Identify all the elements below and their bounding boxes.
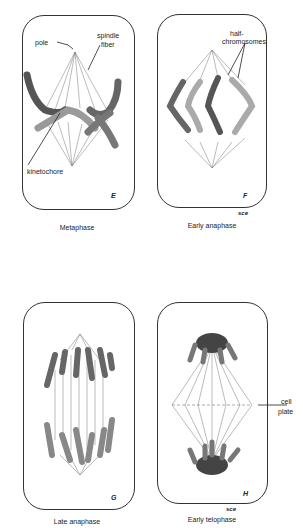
label-chromosomes: chromosomes (222, 38, 266, 46)
panel-letter-h: H (243, 490, 248, 497)
label-plate: plate (278, 408, 293, 416)
panel-letter-e: E (111, 192, 116, 199)
panel-letter-g: G (111, 494, 116, 501)
label-pole: pole (35, 39, 48, 47)
label-fiber: fiber (101, 41, 115, 49)
signature-2: sce (226, 506, 236, 512)
label-half: half- (230, 30, 244, 38)
signature: sce (238, 210, 248, 216)
label-kinetochore: kinetochore (27, 168, 63, 176)
caption-early-telophase: Early telophase (152, 516, 272, 523)
mitosis-illustration (0, 0, 303, 528)
label-spindle: spindle (97, 32, 119, 40)
panel-letter-f: F (243, 192, 247, 199)
caption-early-anaphase: Early anaphase (152, 222, 272, 229)
caption-metaphase: Metaphase (17, 224, 137, 231)
caption-late-anaphase: Late anaphase (17, 518, 137, 525)
label-cell: cell (281, 398, 292, 406)
